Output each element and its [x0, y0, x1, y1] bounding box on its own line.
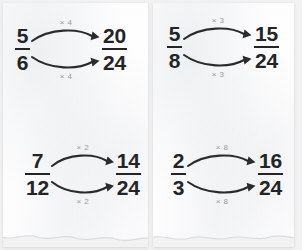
result-denominator: 24 — [102, 52, 127, 73]
fraction-problem-bottom-right: 2 3 × 8 × 8 16 2 — [171, 146, 283, 202]
bottom-multiplier-label: × 2 — [76, 197, 89, 206]
left-sheet: 5 6 × 4 × 4 20 2 — [3, 3, 148, 247]
source-denominator: 6 — [16, 52, 29, 73]
result-denominator: 24 — [254, 50, 279, 71]
result-fraction: 14 24 — [116, 150, 141, 198]
fraction-bar — [167, 46, 182, 48]
bottom-multiplier-label: × 3 — [212, 70, 225, 79]
multiplier-arrows: × 2 × 2 — [50, 146, 116, 202]
source-fraction: 2 3 — [171, 150, 186, 198]
worksheet-canvas: 5 6 × 4 × 4 20 2 — [0, 0, 302, 250]
result-numerator: 16 — [258, 150, 283, 171]
multiplier-arrows: × 8 × 8 — [186, 146, 258, 202]
source-numerator: 5 — [168, 23, 181, 44]
source-denominator: 3 — [172, 177, 185, 198]
source-denominator: 8 — [168, 50, 181, 71]
fraction-bar — [116, 173, 141, 175]
fraction-bar — [15, 48, 30, 50]
source-fraction: 5 8 — [167, 23, 182, 71]
multiplier-arrows: × 4 × 4 — [30, 21, 102, 77]
result-numerator: 15 — [254, 23, 279, 44]
fraction-problem-top-right: 5 8 × 3 × 3 15 2 — [167, 19, 279, 75]
fraction-bar — [25, 173, 50, 175]
result-numerator: 14 — [116, 150, 141, 171]
source-numerator: 5 — [16, 25, 29, 46]
right-sheet: 5 8 × 3 × 3 15 2 — [153, 3, 294, 247]
fraction-bar — [254, 46, 279, 48]
source-fraction: 5 6 — [15, 25, 30, 73]
result-denominator: 24 — [258, 177, 283, 198]
source-fraction: 7 12 — [25, 150, 50, 198]
result-denominator: 24 — [116, 177, 141, 198]
result-numerator: 20 — [102, 25, 127, 46]
fraction-bar — [102, 48, 127, 50]
fraction-problem-bottom-left: 7 12 × 2 × 2 14 — [25, 146, 141, 202]
bottom-multiplier-label: × 8 — [216, 197, 229, 206]
result-fraction: 15 24 — [254, 23, 279, 71]
result-fraction: 20 24 — [102, 25, 127, 73]
fraction-bar — [171, 173, 186, 175]
result-fraction: 16 24 — [258, 150, 283, 198]
source-denominator: 12 — [25, 177, 50, 198]
source-numerator: 7 — [31, 150, 44, 171]
fraction-bar — [258, 173, 283, 175]
bottom-multiplier-label: × 4 — [60, 72, 73, 81]
source-numerator: 2 — [172, 150, 185, 171]
multiplier-arrows: × 3 × 3 — [182, 19, 254, 75]
fraction-problem-top-left: 5 6 × 4 × 4 20 2 — [15, 21, 127, 77]
